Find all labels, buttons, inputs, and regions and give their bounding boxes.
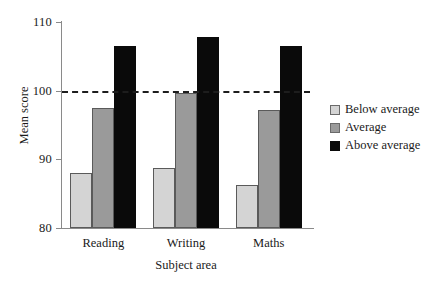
y-axis-tick [56, 91, 61, 92]
legend-item: Below average [330, 101, 430, 118]
legend-item-label: Below average [345, 103, 420, 116]
legend-swatch-icon [330, 105, 340, 115]
legend-item-label: Above average [345, 139, 420, 152]
y-axis-tick-label: 80 [0, 222, 52, 234]
bar-chart: 8090100110 Mean score ReadingWritingMath… [0, 0, 433, 289]
bar [258, 110, 280, 228]
x-axis-tick-label: Reading [58, 236, 148, 251]
legend-item-label: Average [345, 121, 386, 134]
bar [114, 46, 136, 228]
y-axis-tick [56, 159, 61, 160]
y-axis-tick [56, 228, 61, 229]
y-axis-tick-label-text: 110 [6, 16, 52, 28]
reference-line [62, 91, 310, 93]
x-axis-tick-label: Writing [141, 236, 231, 251]
x-axis-tick-label: Maths [224, 236, 314, 251]
y-axis-tick [56, 22, 61, 23]
legend: Below averageAverageAbove average [330, 101, 430, 155]
x-axis-title: Subject area [62, 258, 310, 273]
legend-swatch-icon [330, 141, 340, 151]
legend-item: Average [330, 119, 430, 136]
y-axis-title: Mean score [17, 56, 32, 176]
y-axis-tick-label: 110 [0, 16, 52, 28]
bar [197, 37, 219, 228]
bar [280, 46, 302, 228]
x-axis-line [61, 228, 314, 229]
legend-swatch-icon [330, 123, 340, 133]
bar [92, 108, 114, 228]
plot-area [62, 22, 310, 228]
bar [175, 93, 197, 228]
bar [153, 168, 175, 228]
bar [70, 173, 92, 228]
legend-item: Above average [330, 137, 430, 154]
y-axis-tick-label-text: 80 [6, 222, 52, 234]
bar [236, 185, 258, 228]
